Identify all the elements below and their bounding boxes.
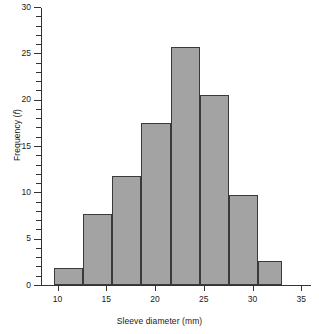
- y-axis-title-suffix: ): [12, 109, 22, 112]
- y-tick-minor: [36, 220, 41, 221]
- y-tick-minor: [36, 137, 41, 138]
- y-tick-major: 5: [34, 239, 41, 240]
- y-tick-minor: [36, 127, 41, 128]
- x-axis-line: [41, 285, 311, 286]
- y-tick-major: 10: [34, 192, 41, 193]
- y-tick-minor: [36, 26, 41, 27]
- y-tick-label: 30: [22, 2, 31, 12]
- y-tick-minor: [36, 266, 41, 267]
- x-tick-major: [155, 286, 156, 291]
- y-tick-label: 15: [22, 141, 31, 151]
- y-tick-minor: [36, 72, 41, 73]
- y-tick-major: 20: [34, 100, 41, 101]
- y-axis-line: [41, 8, 42, 286]
- y-tick-minor: [36, 109, 41, 110]
- y-axis-title-prefix: Frequency (: [12, 114, 22, 160]
- y-tick-major: 0: [34, 285, 41, 286]
- y-tick-label: 5: [26, 233, 31, 243]
- y-tick-minor: [36, 63, 41, 64]
- y-tick-minor: [36, 118, 41, 119]
- y-tick-major: 25: [34, 53, 41, 54]
- histogram-bar: [258, 261, 281, 285]
- histogram-bar: [171, 47, 200, 285]
- x-tick-label: 15: [102, 294, 111, 304]
- histogram-bar: [141, 123, 170, 285]
- y-tick-label: 0: [26, 280, 31, 290]
- y-tick-minor: [36, 81, 41, 82]
- y-tick-minor: [36, 248, 41, 249]
- y-tick-minor: [36, 257, 41, 258]
- y-tick-label: 10: [22, 187, 31, 197]
- histogram-bar: [112, 176, 141, 285]
- x-tick-label: 10: [53, 294, 62, 304]
- y-axis-title-symbol: f: [12, 112, 22, 114]
- y-axis-title: Frequency (f): [12, 80, 22, 190]
- x-axis-title: Sleeve diameter (mm): [0, 316, 319, 326]
- y-tick-minor: [36, 202, 41, 203]
- y-tick-label: 25: [22, 48, 31, 58]
- x-tick-label: 20: [150, 294, 159, 304]
- x-tick-label: 25: [199, 294, 208, 304]
- y-tick-minor: [36, 35, 41, 36]
- histogram-bar: [54, 268, 83, 285]
- x-tick-label: 30: [248, 294, 257, 304]
- y-tick-minor: [36, 155, 41, 156]
- histogram-bar: [229, 195, 258, 285]
- y-tick-minor: [36, 183, 41, 184]
- x-tick-major: [204, 286, 205, 291]
- x-tick-major: [253, 286, 254, 291]
- plot-area: 051015202530 101520253035: [41, 8, 311, 286]
- y-tick-minor: [36, 229, 41, 230]
- y-tick-label: 20: [22, 94, 31, 104]
- y-tick-minor: [36, 44, 41, 45]
- x-tick-major: [301, 286, 302, 291]
- histogram-bar: [83, 214, 112, 285]
- y-tick-major: 30: [34, 7, 41, 8]
- y-tick-minor: [36, 276, 41, 277]
- histogram-bar: [200, 95, 229, 285]
- y-tick-minor: [36, 174, 41, 175]
- histogram-figure: Frequency (f) 051015202530 101520253035 …: [0, 0, 319, 334]
- y-tick-minor: [36, 90, 41, 91]
- y-tick-minor: [36, 16, 41, 17]
- x-tick-major: [106, 286, 107, 291]
- x-tick-major: [58, 286, 59, 291]
- y-tick-minor: [36, 211, 41, 212]
- y-tick-minor: [36, 165, 41, 166]
- y-tick-major: 15: [34, 146, 41, 147]
- x-tick-label: 35: [297, 294, 306, 304]
